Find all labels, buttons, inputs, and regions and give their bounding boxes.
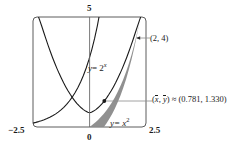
curve-label-parabola: y= x2	[110, 117, 130, 128]
x-axis-max-label: 2.5	[149, 126, 160, 135]
x-axis-min-label: −2.5	[8, 126, 24, 135]
curve-label-exponential-eq: = 2	[92, 63, 104, 73]
curve-label-parabola-eq: = x	[114, 118, 126, 128]
origin-label: 0	[87, 133, 92, 142]
centroid-ybar: y	[163, 95, 167, 104]
centroid-xbar: x	[155, 95, 159, 104]
centroid-value: (0.781, 1.330)	[178, 94, 226, 104]
curve-label-parabola-exponent: 2	[126, 116, 129, 123]
centroid-dot	[102, 99, 106, 103]
annotation-centroid: (x, y) ≈ (0.781, 1.330)	[152, 95, 227, 104]
figure-container: 5 0 −2.5 2.5 y= 2x y= x2 (2, 4) (x, y) ≈…	[0, 0, 245, 150]
curve-label-exponential: y= 2x	[88, 62, 107, 73]
annotation-intersection-point: (2, 4)	[150, 34, 168, 43]
y-axis-max-label: 5	[87, 4, 92, 13]
curve-label-exponential-exponent: x	[104, 61, 107, 68]
